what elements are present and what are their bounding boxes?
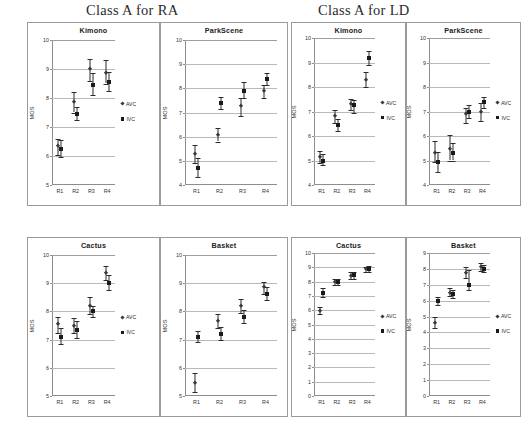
x-axis-tick-label: R3 [88,188,95,194]
error-bar-cap [333,110,338,111]
y-axis-tick-label: 4 [423,182,426,188]
data-point-ivc [367,267,371,271]
y-axis-tick-mark [312,267,314,268]
x-axis-tick-label: R3 [464,188,471,194]
y-axis-tick-label: 6 [179,365,182,371]
chart-legend: AVCIVC [496,100,511,130]
y-axis-tick-mark [312,161,314,162]
y-axis-tick-label: 1 [308,379,311,385]
y-axis-tick-mark [50,340,52,341]
y-axis-tick-label: 9 [423,250,426,256]
y-axis-tick-label: 5 [308,322,311,328]
y-axis-tick-label: 9 [308,60,311,66]
y-axis-tick-mark [183,396,185,397]
x-axis-tick-label: R2 [72,399,79,405]
legend-item-ivc: IVC [381,115,396,121]
plot-area-ld-cactus: 012345678910R1R2R3R4 [314,253,375,396]
chart-legend: AVCIVC [121,101,136,131]
gridline [314,253,375,254]
plot-area-ld-basket: 0123456789R1R2R3R4 [429,253,490,396]
y-axis-tick-label: 8 [308,279,311,285]
error-bar-cap [219,327,224,328]
y-axis-tick-label: 5 [46,182,49,188]
y-axis-tick-mark [50,98,52,99]
y-axis-tick-label: 6 [308,133,311,139]
diamond-marker [495,101,499,105]
error-bar-cap [466,290,471,291]
y-axis-tick-label: 6 [179,134,182,140]
y-axis-tick-mark [50,396,52,397]
data-point-ivc [436,299,440,303]
gridline [429,253,490,254]
x-axis-tick-label: R3 [464,399,471,405]
y-axis-tick-mark [312,38,314,39]
chart-title-ld-kimono: Kimono [292,26,405,35]
error-bar-cap [265,287,270,288]
error-bar-cap [321,288,326,289]
error-bar-cap [238,299,243,300]
gridline [429,87,490,88]
y-axis-label: MOS [406,318,412,331]
chart-panel-ld-basket: Basket0123456789R1R2R3R4MOSAVCIVC [406,237,521,417]
y-axis-tick-label: 6 [46,153,49,159]
chart-panel-ld-parkscene: ParkScene45678910R1R2R3R4MOSAVCIVC [406,22,521,206]
gridline [314,38,375,39]
y-axis-tick-mark [183,185,185,186]
error-bar-cap [56,317,61,318]
x-axis-tick-label: R3 [349,188,356,194]
error-bar-cap [481,272,486,273]
error-bar-cap [436,305,441,306]
y-axis-tick-mark [312,253,314,254]
gridline [52,311,115,312]
error-bar-cap [75,120,80,121]
y-axis-tick-label: 8 [423,266,426,272]
x-axis-tick-label: R4 [262,399,269,405]
error-bar-cap [363,72,368,73]
data-point-ivc [242,315,246,319]
x-axis-tick-label: R3 [88,399,95,405]
chart-legend: AVCIVC [381,100,396,130]
data-point-ivc [482,267,486,271]
error-bar-cap [90,317,95,318]
gridline [52,98,115,99]
plot-area-ra-basket: 5678910R1R2R3R4 [185,255,277,396]
y-axis-tick-mark [312,87,314,88]
y-axis-tick-mark [427,269,429,270]
y-axis-tick-label: 10 [305,35,311,41]
y-axis-tick-mark [183,88,185,89]
data-point-ivc [321,291,325,295]
y-axis-tick-mark [312,382,314,383]
square-marker [121,331,124,334]
y-axis-tick-label: 7 [423,282,426,288]
x-axis-tick-label: R1 [56,188,63,194]
error-bar-cap [242,310,247,311]
y-axis-tick-label: 0 [423,393,426,399]
x-axis-tick-label: R4 [479,399,486,405]
chart-title-ld-parkscene: ParkScene [407,26,520,35]
gridline [52,255,115,256]
x-axis-tick-label: R2 [448,399,455,405]
x-axis-tick-label: R4 [364,188,371,194]
data-point-ivc [219,101,223,105]
data-point-ivc [336,280,340,284]
error-bar-cap [466,118,471,119]
chart-legend: AVCIVC [381,313,396,343]
error-bar-cap [451,143,456,144]
data-point-ivc [196,335,200,339]
legend-label: IVC [126,116,135,122]
legend-label: IVC [501,115,510,121]
diamond-marker [120,102,124,106]
y-axis-tick-mark [312,63,314,64]
y-axis-tick-label: 7 [423,109,426,115]
gridline [429,380,490,381]
data-point-ivc [59,147,63,151]
error-bar-cap [106,91,111,92]
legend-label: IVC [501,328,510,334]
y-axis-tick-mark [183,40,185,41]
x-axis-tick-label: R2 [448,188,455,194]
error-bar-cap [75,321,80,322]
plot-area-ra-parkscene: 45678910R1R2R3R4 [185,40,277,185]
y-axis-tick-label: 3 [423,345,426,351]
error-bar-cap [351,279,356,280]
y-axis-tick-mark [427,87,429,88]
